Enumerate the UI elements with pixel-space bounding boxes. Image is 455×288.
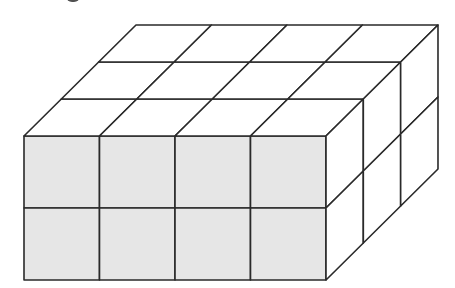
front-cube-face [24, 136, 100, 208]
front-cube-face [251, 136, 327, 208]
figure-canvas [0, 0, 455, 288]
front-face [24, 136, 326, 280]
front-cube-face [100, 208, 176, 280]
cube-prism-diagram [0, 0, 455, 288]
front-cube-face [251, 208, 327, 280]
front-cube-face [175, 136, 251, 208]
front-cube-face [175, 208, 251, 280]
front-cube-face [24, 208, 100, 280]
front-cube-face [100, 136, 176, 208]
